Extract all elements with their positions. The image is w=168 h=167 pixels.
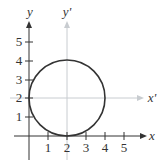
y-tick-label: 3 (16, 72, 23, 87)
y-arrow-icon (26, 21, 32, 28)
x-tick-label: 2 (64, 140, 71, 155)
y-tick-label: 5 (16, 34, 23, 49)
x-tick-label: 1 (45, 140, 52, 155)
x-prime-arrow-icon (137, 95, 144, 101)
x-tick-label: 3 (83, 140, 90, 155)
diagram-canvas: 1 2 3 4 5 1 2 3 4 5 x y x' y' (0, 0, 168, 167)
x-axis-label: x (148, 128, 155, 143)
y-tick-label: 1 (16, 109, 23, 124)
y-prime-arrow-icon (64, 21, 70, 28)
y-axis-label: y (25, 4, 33, 19)
x-arrow-icon (140, 133, 147, 139)
x-prime-axis-label: x' (147, 90, 157, 105)
y-prime-axis-label: y' (61, 4, 72, 19)
x-tick-label: 4 (102, 140, 109, 155)
x-tick-label: 5 (121, 140, 128, 155)
y-tick-label: 2 (16, 90, 23, 105)
y-tick-label: 4 (16, 53, 23, 68)
